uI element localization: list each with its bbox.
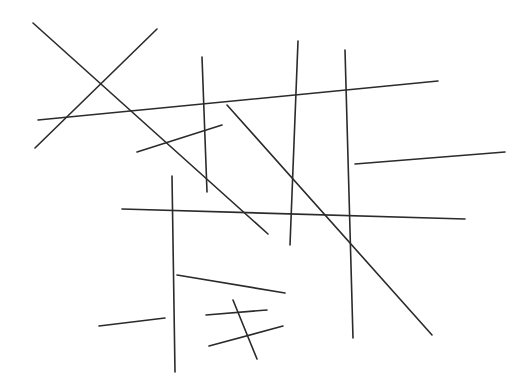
line-drawing-figure — [0, 0, 532, 391]
line-segment-canvas — [0, 0, 532, 391]
figure-background — [0, 0, 532, 391]
